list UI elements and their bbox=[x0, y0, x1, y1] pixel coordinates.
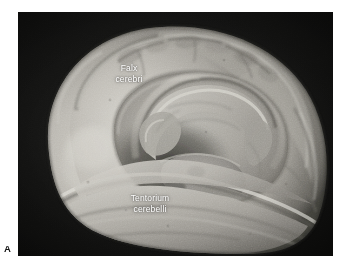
panel-letter: A bbox=[4, 243, 11, 254]
specimen-photograph: Falx cerebri Tentorium cerebelli bbox=[18, 12, 333, 256]
specimen-photograph-canvas bbox=[18, 12, 333, 256]
anatomy-figure: Falx cerebri Tentorium cerebelli A bbox=[0, 0, 346, 273]
dura-highlight-core bbox=[66, 126, 114, 170]
